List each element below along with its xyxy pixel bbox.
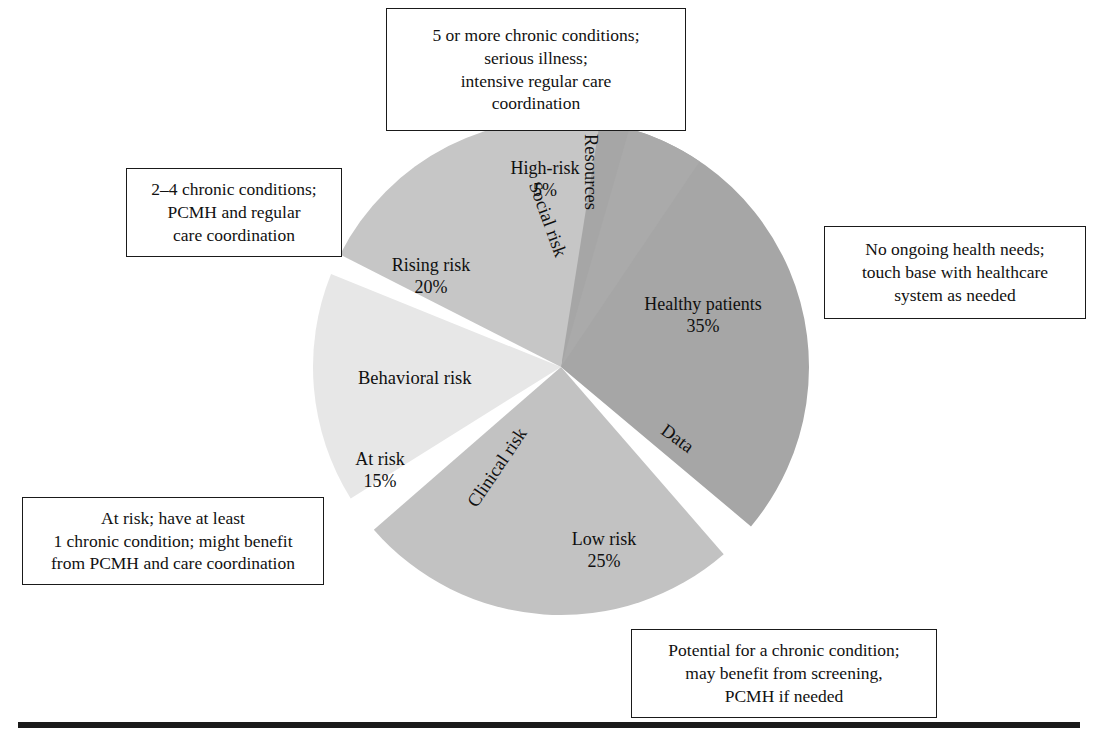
callout-high-risk-line-4: coordination bbox=[492, 92, 580, 115]
callout-at-risk-line-2: 1 chronic condition; might benefit bbox=[53, 530, 292, 553]
callout-at-risk-line-3: from PCMH and care coordination bbox=[51, 552, 295, 575]
figure-root: Healthy patients 35% Low risk 25% At ris… bbox=[0, 0, 1096, 753]
slice-label-at-risk: At risk 15% bbox=[355, 449, 405, 493]
slice-label-low-risk-pct: 25% bbox=[572, 551, 637, 573]
callout-rising-risk: 2–4 chronic conditions; PCMH and regular… bbox=[126, 168, 342, 257]
slice-label-at-risk-name: At risk bbox=[355, 449, 405, 469]
callout-high-risk-line-3: intensive regular care bbox=[461, 70, 612, 93]
slice-label-rising-risk-pct: 20% bbox=[392, 277, 471, 299]
slice-label-low-risk: Low risk 25% bbox=[572, 529, 637, 573]
slice-label-healthy-name: Healthy patients bbox=[644, 294, 761, 314]
callout-rising-risk-line-2: PCMH and regular bbox=[167, 201, 300, 224]
callout-high-risk-line-1: 5 or more chronic conditions; bbox=[432, 24, 639, 47]
slice-label-healthy-pct: 35% bbox=[644, 316, 761, 338]
slice-label-rising-risk: Rising risk 20% bbox=[392, 255, 471, 299]
slice-label-high-risk-name: High-risk bbox=[511, 158, 580, 178]
callout-high-risk: 5 or more chronic conditions; serious il… bbox=[386, 8, 686, 131]
callout-rising-risk-line-3: care coordination bbox=[173, 224, 295, 247]
gap-label-behavioral-risk: Behavioral risk bbox=[358, 368, 472, 389]
slice-label-low-risk-name: Low risk bbox=[572, 529, 637, 549]
callout-high-risk-line-2: serious illness; bbox=[484, 47, 588, 70]
slice-label-rising-risk-name: Rising risk bbox=[392, 255, 471, 275]
callout-low-risk-line-1: Potential for a chronic condition; bbox=[668, 639, 899, 662]
slice-label-at-risk-pct: 15% bbox=[355, 471, 405, 493]
callout-at-risk: At risk; have at least 1 chronic conditi… bbox=[22, 497, 324, 585]
slice-label-healthy: Healthy patients 35% bbox=[644, 294, 761, 338]
callout-healthy-line-1: No ongoing health needs; bbox=[865, 238, 1044, 261]
callout-healthy-patients: No ongoing health needs; touch base with… bbox=[824, 226, 1086, 319]
callout-low-risk-line-3: PCMH if needed bbox=[725, 685, 844, 708]
gap-label-resources: Resources bbox=[580, 134, 601, 210]
callout-low-risk: Potential for a chronic condition; may b… bbox=[631, 629, 937, 718]
callout-rising-risk-line-1: 2–4 chronic conditions; bbox=[151, 178, 316, 201]
callout-healthy-line-3: system as needed bbox=[894, 284, 1016, 307]
callout-healthy-line-2: touch base with healthcare bbox=[862, 261, 1048, 284]
bottom-divider bbox=[18, 722, 1080, 728]
callout-low-risk-line-2: may benefit from screening, bbox=[685, 662, 882, 685]
callout-at-risk-line-1: At risk; have at least bbox=[101, 507, 245, 530]
